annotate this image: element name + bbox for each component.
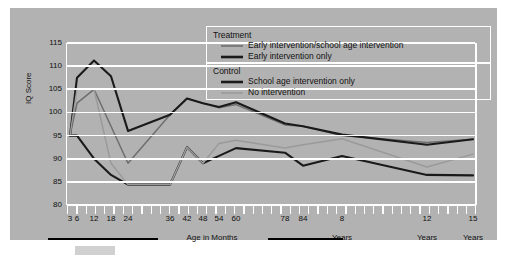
- x-tick-mark: [429, 205, 430, 214]
- x-tick-mark: [262, 205, 263, 214]
- x-tick-label: 15: [469, 214, 478, 223]
- y-tick-label: 85: [40, 177, 62, 186]
- x-tick-mark: [169, 205, 170, 214]
- x-tick-label: 78: [281, 214, 290, 223]
- series-line: [70, 89, 473, 184]
- legend-swatch-3: [221, 90, 243, 96]
- legend-label-3: No intervention: [248, 87, 305, 97]
- x-tick-label: 12: [90, 214, 99, 223]
- y-tick-label: 115: [40, 38, 62, 47]
- legend-label-2: School age intervention only: [248, 76, 355, 86]
- y-tick-label: 100: [40, 107, 62, 116]
- group-label-months: Age in Months: [186, 233, 237, 242]
- x-tick-label: 42: [183, 214, 192, 223]
- x-tick-mark: [67, 205, 68, 214]
- x-tick-mark: [76, 205, 77, 214]
- legend-group-control: Control: [213, 66, 240, 76]
- x-tick-mark: [243, 205, 244, 214]
- x-tick-mark: [95, 205, 96, 214]
- x-tick-mark: [253, 205, 254, 214]
- caption-placeholder-block: [75, 246, 115, 255]
- gridline: [67, 181, 475, 183]
- x-tick-mark: [475, 205, 476, 214]
- x-tick-mark: [160, 205, 161, 214]
- x-tick-label: 36: [166, 214, 175, 223]
- x-tick-mark: [373, 205, 374, 214]
- y-axis-title: IQ Score: [24, 72, 33, 104]
- x-tick-mark: [308, 205, 309, 214]
- y-axis-tick-labels: 11511010510095908580: [36, 43, 62, 205]
- x-tick-mark: [419, 205, 420, 214]
- x-axis-group-labels: Age in Months: [10, 233, 497, 245]
- x-tick-mark: [113, 205, 114, 214]
- y-tick-label: 105: [40, 84, 62, 93]
- x-tick-mark: [410, 205, 411, 214]
- y-tick-label: 90: [40, 154, 62, 163]
- x-axis-ticks: [67, 205, 475, 214]
- x-tick-mark: [299, 205, 300, 214]
- x-tick-label: 24: [124, 214, 133, 223]
- x-tick-mark: [271, 205, 272, 214]
- x-tick-label: 12: [423, 214, 432, 223]
- x-tick-mark: [206, 205, 207, 214]
- x-tick-mark: [317, 205, 318, 214]
- x-tick-mark: [364, 205, 365, 214]
- x-tick-mark: [234, 205, 235, 214]
- x-tick-mark: [447, 205, 448, 214]
- x-tick-mark: [123, 205, 124, 214]
- legend-label-0: Early intervention/school age interventi…: [248, 40, 403, 50]
- x-tick-label: 3: [68, 214, 72, 223]
- y-tick-label: 80: [40, 200, 62, 209]
- x-tick-mark: [392, 205, 393, 214]
- legend-swatch-1: [221, 54, 243, 60]
- chart-panel: IQ Score 11511010510095908580 3612182436…: [10, 8, 497, 240]
- gridline: [67, 112, 475, 114]
- x-tick-label: 48: [199, 214, 208, 223]
- x-tick-mark: [345, 205, 346, 214]
- x-tick-mark: [280, 205, 281, 214]
- x-tick-label: 8: [340, 214, 344, 223]
- legend-swatch-0: [221, 43, 243, 49]
- x-tick-mark: [197, 205, 198, 214]
- gridline: [67, 158, 475, 160]
- group-rule-left: [48, 238, 158, 240]
- gridline: [67, 135, 475, 137]
- x-tick-mark: [290, 205, 291, 214]
- legend-label-1: Early intervention only: [248, 51, 332, 61]
- x-tick-mark: [141, 205, 142, 214]
- x-tick-label: 84: [299, 214, 308, 223]
- x-tick-mark: [457, 205, 458, 214]
- x-tick-mark: [178, 205, 179, 214]
- chart-legend: Treatment Control Early intervention/sch…: [206, 26, 491, 100]
- x-tick-label: 18: [107, 214, 116, 223]
- x-tick-mark: [188, 205, 189, 214]
- x-tick-mark: [336, 205, 337, 214]
- legend-swatch-2: [221, 79, 243, 85]
- group-rule-right: [268, 238, 343, 240]
- y-tick-label: 95: [40, 131, 62, 140]
- x-tick-mark: [104, 205, 105, 214]
- x-tick-label: 6: [75, 214, 79, 223]
- x-tick-mark: [438, 205, 439, 214]
- x-tick-mark: [151, 205, 152, 214]
- legend-group-treatment: Treatment: [213, 30, 251, 40]
- x-tick-label: 60: [232, 214, 241, 223]
- x-tick-mark: [382, 205, 383, 214]
- x-tick-mark: [132, 205, 133, 214]
- y-tick-label: 110: [40, 61, 62, 70]
- legend-separator: [207, 62, 490, 64]
- x-tick-mark: [466, 205, 467, 214]
- x-tick-mark: [355, 205, 356, 214]
- x-tick-mark: [401, 205, 402, 214]
- x-tick-mark: [86, 205, 87, 214]
- x-tick-mark: [327, 205, 328, 214]
- x-tick-mark: [225, 205, 226, 214]
- x-tick-label: 54: [215, 214, 224, 223]
- x-tick-mark: [215, 205, 216, 214]
